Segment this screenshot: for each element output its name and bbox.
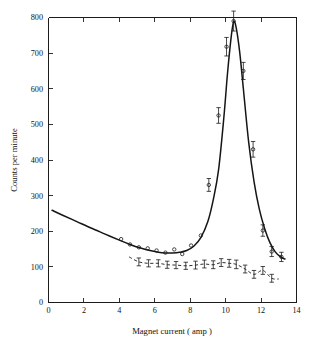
error-bar <box>243 265 247 273</box>
x-tick-label: 10 <box>222 306 230 315</box>
data-point-marker <box>189 244 192 247</box>
x-tick-label: 8 <box>188 306 192 315</box>
y-tick-label: 300 <box>31 192 43 201</box>
x-axis-title: Magnet current ( amp ) <box>132 326 212 336</box>
x-tick-label: 0 <box>46 306 50 315</box>
y-axis-ticks: 0100200300400500600700800 <box>31 13 53 307</box>
data-series-layer <box>52 11 285 282</box>
error-bar <box>270 274 274 282</box>
error-bar <box>261 267 265 275</box>
y-tick-label: 200 <box>31 227 43 236</box>
data-point-marker <box>173 248 176 251</box>
series-1 <box>52 11 285 261</box>
series-2 <box>129 257 279 282</box>
series-line <box>52 21 285 259</box>
x-tick-label: 6 <box>153 306 157 315</box>
y-tick-label: 400 <box>31 156 43 165</box>
chart-figure: 0100200300400500600700800 02468101214 Ma… <box>0 0 317 349</box>
y-tick-label: 600 <box>31 85 43 94</box>
axis-frame <box>49 18 297 303</box>
y-tick-label: 700 <box>31 49 43 58</box>
y-tick-label: 500 <box>31 120 43 129</box>
y-tick-label: 800 <box>31 13 43 22</box>
y-tick-label: 100 <box>31 263 43 272</box>
y-tick-label: 0 <box>39 298 43 307</box>
y-axis-title: Counts per minute <box>9 128 19 192</box>
x-tick-label: 2 <box>82 306 86 315</box>
x-tick-label: 4 <box>117 306 121 315</box>
plot-axes <box>49 18 297 303</box>
counts-vs-magnet-current-plot: 0100200300400500600700800 02468101214 Ma… <box>0 0 317 349</box>
x-tick-label: 14 <box>292 306 300 315</box>
data-point-marker <box>181 252 184 255</box>
x-tick-label: 12 <box>257 306 265 315</box>
